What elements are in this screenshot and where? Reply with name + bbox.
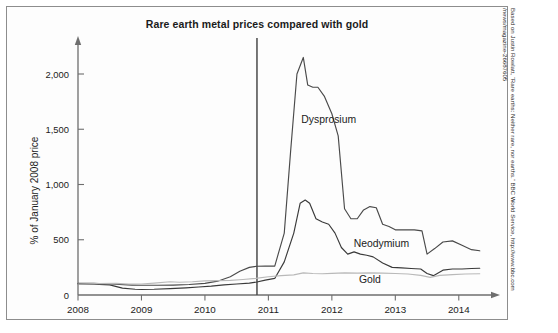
- y-tick-label: 500: [53, 234, 69, 245]
- credit-line-1: Based on Justin Rowlatt, “Rare earths: N…: [510, 8, 517, 291]
- series-label-dysprosium: Dysprosium: [301, 114, 356, 125]
- credit-line-2: /news/magazine-26687605: [500, 8, 508, 320]
- series-line-gold: [78, 273, 480, 284]
- y-tick-label: 1,500: [46, 124, 69, 135]
- y-axis-arrow: [75, 36, 81, 45]
- series-label-neodymium: Neodymium: [354, 238, 409, 249]
- y-tick-label: 1,000: [46, 179, 69, 190]
- series-label-gold: Gold: [359, 274, 381, 285]
- y-tick-label: 0: [64, 290, 69, 301]
- y-axis-title: % of January 2008 price: [29, 136, 40, 244]
- chart-page: Rare earth metal prices compared with go…: [0, 0, 558, 333]
- y-tick-label: 2,000: [46, 69, 69, 80]
- x-tick-label: 2013: [384, 304, 406, 315]
- x-tick-label: 2014: [448, 304, 470, 315]
- x-tick-label: 2009: [131, 304, 153, 315]
- series-line-dysprosium: [78, 57, 480, 285]
- x-tick-label: 2008: [67, 304, 89, 315]
- x-tick-label: 2011: [258, 304, 279, 315]
- x-tick-label: 2012: [321, 304, 343, 315]
- line-chart: 05001,0001,5002,000200820092010201120122…: [6, 6, 508, 320]
- x-tick-label: 2010: [194, 304, 216, 315]
- source-credit: Based on Justin Rowlatt, “Rare earths: N…: [479, 8, 517, 320]
- page-bottom-sliver: [0, 327, 558, 333]
